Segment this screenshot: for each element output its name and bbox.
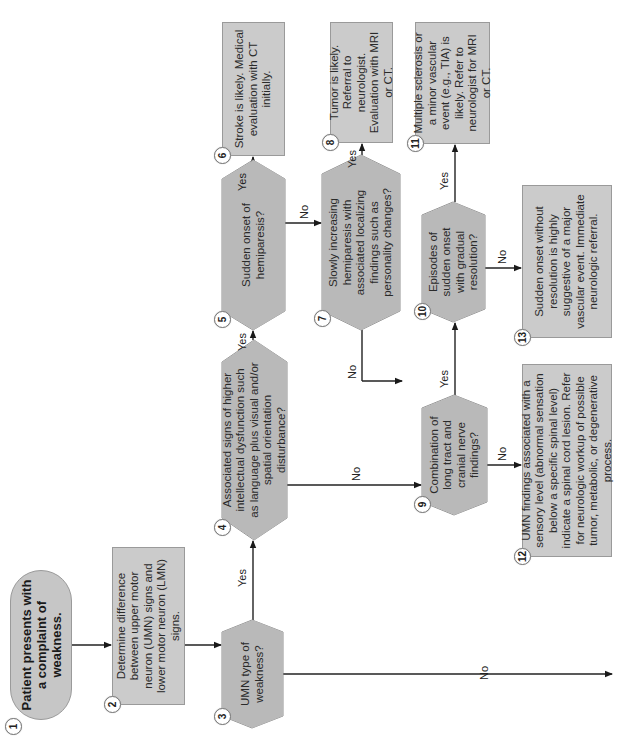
- node-5-badge: 5: [214, 311, 231, 328]
- node-13-text: Sudden onset without resolution is highl…: [531, 186, 603, 337]
- node-7-decision: Slowly increasing hemiparesis with assoc…: [322, 155, 400, 330]
- node-13-outcome: Sudden onset without resolution is highl…: [522, 185, 612, 338]
- node-13-badge: 13: [514, 329, 531, 346]
- node-10-text: Episodes of sudden onset with gradual re…: [425, 202, 483, 322]
- node-3-decision: UMN type of weakness?: [222, 620, 283, 728]
- node-10-badge: 10: [414, 303, 431, 320]
- node-4-badge: 4: [214, 519, 231, 536]
- node-12-badge: 12: [514, 548, 531, 565]
- label-7-yes: Yes: [346, 150, 358, 168]
- node-1-badge: 1: [5, 718, 22, 735]
- label-4-yes: Yes: [236, 333, 248, 351]
- node-2-text: Determine difference between upper motor…: [113, 548, 185, 704]
- node-6-badge: 6: [214, 147, 231, 164]
- node-8-badge: 8: [322, 134, 339, 151]
- label-10-yes: Yes: [438, 172, 450, 190]
- node-1-start: Patient presents with a complaint of wea…: [10, 570, 72, 720]
- node-3-badge: 3: [214, 708, 231, 725]
- node-8-outcome: Tumor is likely. Referral to neurologist…: [330, 22, 393, 143]
- node-4-decision: Associated signs of higher intellectual …: [222, 340, 287, 540]
- node-8-text: Tumor is likely. Referral to neurologist…: [326, 23, 398, 142]
- node-9-badge: 9: [414, 496, 431, 513]
- node-4-text: Associated signs of higher intellectual …: [219, 340, 291, 540]
- node-9-decision: Combination of long tract and cranial ne…: [422, 395, 487, 515]
- label-5-no: No: [298, 205, 310, 219]
- node-11-badge: 11: [407, 135, 424, 152]
- node-5-decision: Sudden onset of hemiparesis?: [222, 160, 285, 330]
- figure-frame: Patient presents with a complaint of wea…: [0, 0, 624, 743]
- node-7-badge: 7: [314, 310, 331, 327]
- label-5-yes: Yes: [236, 173, 248, 191]
- label-10-no: No: [496, 250, 508, 264]
- node-12-text: UMN findings associated with a sensory l…: [518, 365, 617, 556]
- label-7-no: No: [346, 365, 358, 379]
- node-2-badge: 2: [104, 696, 121, 713]
- node-1-text: Patient presents with a complaint of wea…: [17, 571, 66, 719]
- node-11-text: Multiple sclerosis or a minor vascular e…: [410, 23, 495, 143]
- node-12-outcome: UMN findings associated with a sensory l…: [522, 364, 612, 557]
- node-6-outcome: Stroke is likely. Medical evaluation wit…: [222, 22, 285, 156]
- label-3-no: No: [478, 666, 490, 680]
- node-3-text: UMN type of weakness?: [237, 620, 268, 728]
- node-11-outcome: Multiple sclerosis or a minor vascular e…: [415, 22, 490, 144]
- label-3-yes: Yes: [236, 569, 248, 587]
- node-6-text: Stroke is likely. Medical evaluation wit…: [231, 23, 276, 155]
- label-4-no: No: [350, 467, 362, 481]
- node-7-text: Slowly increasing hemiparesis with assoc…: [325, 155, 397, 330]
- flowchart-canvas: Patient presents with a complaint of wea…: [0, 0, 624, 743]
- node-2-process: Determine difference between upper motor…: [112, 547, 185, 705]
- label-9-yes: Yes: [438, 370, 450, 388]
- node-10-decision: Episodes of sudden onset with gradual re…: [422, 202, 485, 322]
- node-9-text: Combination of long tract and cranial ne…: [426, 395, 484, 515]
- label-9-no: No: [496, 447, 508, 461]
